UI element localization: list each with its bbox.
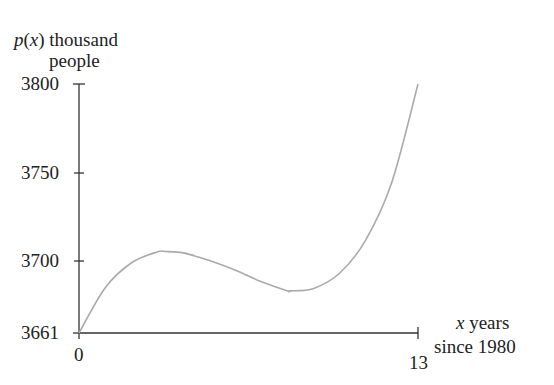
y-tick-label-3700: 3700 [21, 251, 59, 271]
y-tick-label-3800: 3800 [21, 74, 59, 94]
y-tick-label-3750: 3750 [21, 163, 59, 183]
y-axis-label-line2: people [49, 51, 100, 71]
y-label-func: p [14, 29, 24, 50]
y-axis-label: p(x) thousand [14, 30, 118, 50]
x-tick-label-13: 13 [409, 353, 428, 373]
x-axis-label: x years [456, 313, 509, 333]
series-line-p [79, 84, 418, 333]
y-label-rest: thousand [45, 29, 118, 50]
x-label-rest: years [464, 312, 509, 333]
y-label-var: x [30, 29, 38, 50]
x-tick-label-0: 0 [74, 345, 84, 365]
x-axis-label-line2: since 1980 [434, 337, 516, 357]
y-tick-label-3661: 3661 [21, 323, 59, 343]
